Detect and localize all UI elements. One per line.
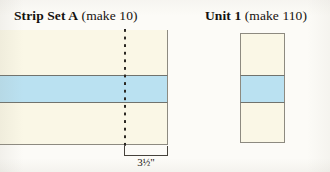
measurement-label: 3½" — [124, 156, 168, 168]
unit-1-band-blue-middle — [240, 75, 285, 103]
strip-set-a-band-cream-bottom — [0, 103, 168, 145]
strip-set-a-block — [0, 30, 168, 145]
strip-set-a-band-blue-middle — [0, 75, 168, 103]
cut-line-dashed — [124, 29, 126, 146]
unit-1-quantity: (make 110) — [241, 8, 307, 23]
measurement-bracket — [124, 146, 168, 156]
strip-set-a-title: Strip Set A — [14, 8, 78, 23]
unit-1-caption: Unit 1 (make 110) — [205, 8, 307, 24]
strip-set-a-band-cream-top — [0, 30, 168, 75]
unit-1-block — [240, 33, 285, 143]
unit-1-title: Unit 1 — [205, 8, 241, 23]
unit-1-band-cream-bottom — [240, 103, 285, 143]
measurement-unit: " — [150, 156, 155, 168]
unit-1-band-cream-top — [240, 33, 285, 75]
strip-set-a-quantity: (make 10) — [78, 8, 137, 23]
strip-set-a-caption: Strip Set A (make 10) — [14, 8, 138, 24]
diagram-page: Strip Set A (make 10) Unit 1 (make 110) … — [0, 0, 330, 172]
